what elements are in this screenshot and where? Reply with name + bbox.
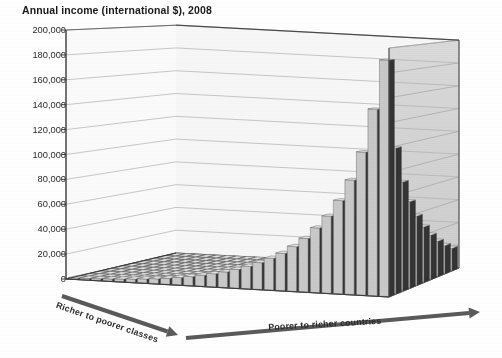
bar-front-face	[149, 278, 158, 283]
bar-front-face	[322, 216, 331, 294]
bar-front-face	[161, 278, 170, 284]
bar-front-face	[379, 60, 388, 297]
bar-side-face	[445, 244, 451, 274]
arrow-poorer-to-richer-countries-head	[469, 307, 480, 318]
bar-side-face	[389, 60, 395, 297]
bar-side-face	[396, 147, 402, 294]
bar-front-face	[368, 109, 377, 296]
chart-canvas	[0, 0, 502, 358]
arrow-richer-to-poorer-classes-head	[166, 326, 178, 336]
bar-side-face	[424, 225, 430, 282]
chart-3d-scene	[62, 25, 480, 338]
bar-side-face	[431, 233, 437, 279]
bar-top-face	[379, 59, 394, 60]
bar-side-face	[417, 214, 423, 285]
bar-front-face	[241, 266, 250, 289]
bar-front-face	[253, 262, 262, 289]
bar-side-face	[403, 181, 409, 291]
bar-front-face	[276, 253, 285, 291]
bar-front-face	[356, 152, 365, 296]
bar-front-face	[172, 277, 181, 285]
bar-side-face	[452, 246, 458, 270]
bar-front-face	[299, 238, 308, 292]
bar-front-face	[333, 200, 342, 294]
bar-side-face	[410, 200, 416, 288]
bar	[379, 59, 394, 297]
chart-figure: Annual income (international $), 2008 20…	[0, 0, 502, 358]
bar-front-face	[218, 272, 227, 288]
bar-front-face	[264, 258, 273, 290]
bar-front-face	[230, 269, 239, 288]
bar-front-face	[310, 228, 319, 293]
bar-front-face	[195, 275, 204, 286]
bar-front-face	[184, 276, 193, 285]
bar-front-face	[207, 273, 216, 287]
bar-side-face	[438, 239, 444, 276]
bar-front-face	[287, 246, 296, 291]
bar-front-face	[345, 180, 354, 295]
